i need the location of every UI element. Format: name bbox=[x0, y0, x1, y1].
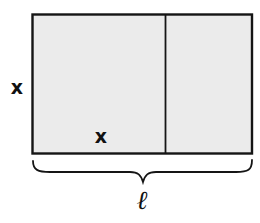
height-label: x bbox=[11, 76, 23, 98]
square-side-label: x bbox=[95, 125, 107, 147]
length-brace bbox=[33, 160, 252, 182]
length-label: ℓ bbox=[137, 185, 148, 215]
outer-rectangle bbox=[33, 15, 253, 154]
rectangle-diagram: x x ℓ bbox=[0, 0, 260, 223]
